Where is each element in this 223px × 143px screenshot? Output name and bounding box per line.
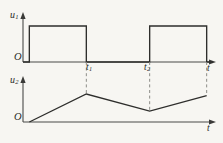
origin-label-bottom: O bbox=[14, 112, 22, 123]
t-axis-label-top: t bbox=[207, 64, 210, 74]
u1-axis-label: u1 bbox=[10, 10, 19, 21]
u2-t-axis-arrow bbox=[209, 119, 216, 124]
u1-waveform bbox=[23, 26, 213, 62]
u2-axis-label: u2 bbox=[10, 75, 19, 86]
tick-label-t2-sub: 2 bbox=[147, 65, 150, 72]
tick-label-t2: t2 bbox=[144, 63, 150, 73]
u1-y-axis-arrow bbox=[20, 12, 25, 19]
u2-axis-label-sub: 2 bbox=[15, 78, 18, 85]
waveform-figure: u1 O t1 t2 t u2 O t bbox=[0, 0, 223, 143]
u2-waveform bbox=[29, 94, 206, 122]
origin-label-top: O bbox=[14, 52, 22, 63]
tick-label-t1-sub: 1 bbox=[89, 65, 92, 72]
waveform-svg bbox=[0, 0, 223, 143]
chart-u2 bbox=[20, 76, 216, 125]
u2-y-axis-arrow bbox=[20, 76, 25, 83]
tick-label-t1: t1 bbox=[86, 63, 92, 73]
chart-u1 bbox=[20, 12, 216, 65]
u1-axis-label-sub: 1 bbox=[15, 13, 18, 20]
t-axis-label-bottom: t bbox=[207, 124, 210, 134]
